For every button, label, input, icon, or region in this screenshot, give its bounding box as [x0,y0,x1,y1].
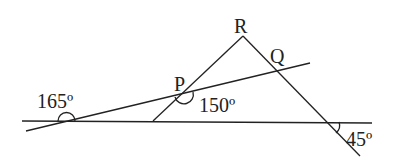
angle-label-165: 165º [37,90,73,112]
side-line-rq [243,36,360,156]
angle-label-150: 150º [199,94,235,116]
angle-label-45: 45º [346,128,372,150]
point-label-p: P [174,73,185,95]
geometry-diagram: 165º P 150º R Q 45º [0,0,404,161]
horizontal-line [22,121,372,123]
point-label-q: Q [270,45,285,67]
point-label-r: R [234,15,248,37]
